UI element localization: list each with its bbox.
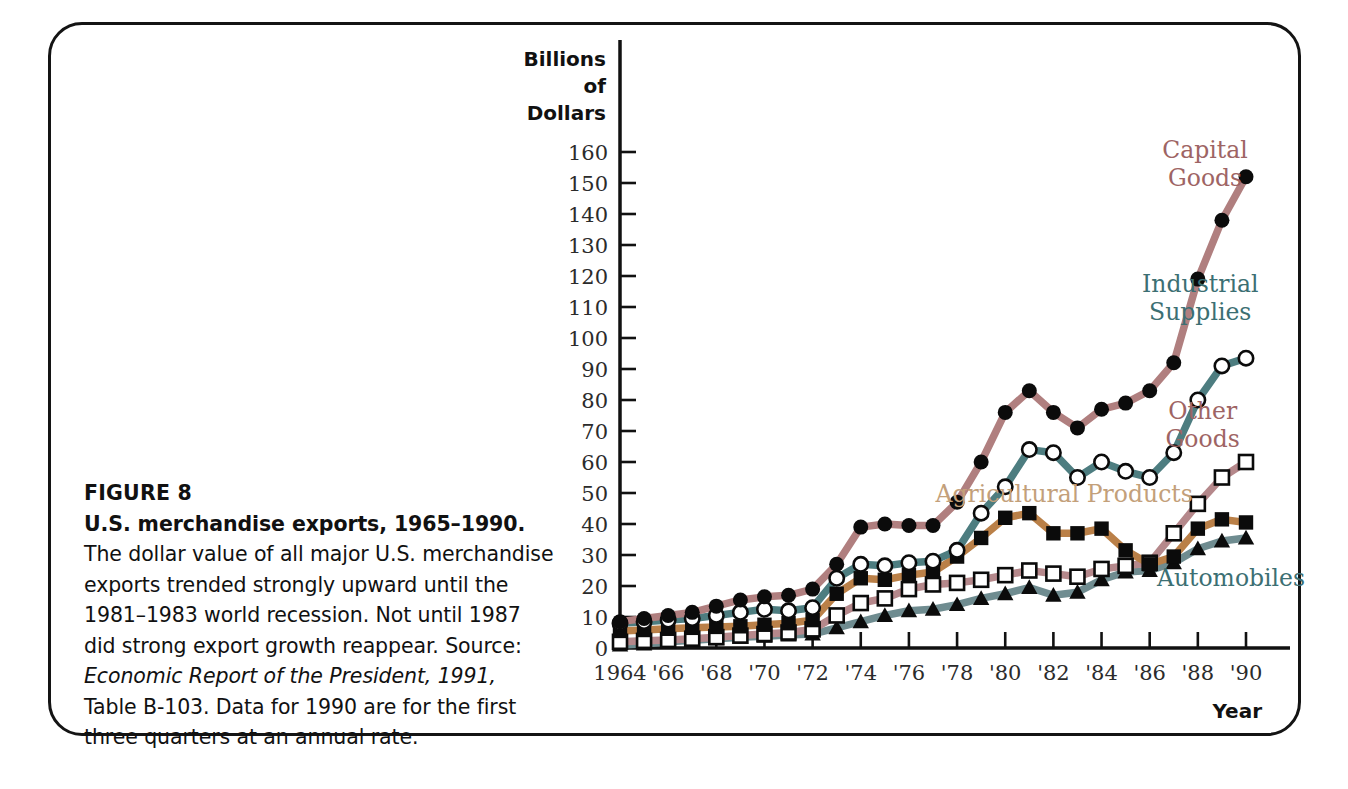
figure-source-rest: Table B-103. Data for 1990 are for the f… (84, 695, 516, 750)
figure-number: FIGURE 8 (84, 478, 554, 509)
figure-source-prefix: Source: (445, 634, 522, 658)
figure-title: U.S. merchandise exports, 1965–1990. (84, 512, 525, 536)
figure-source-citation: Economic Report of the President, 1991, (84, 664, 496, 688)
figure-caption: FIGURE 8U.S. merchandise exports, 1965–1… (84, 478, 554, 753)
